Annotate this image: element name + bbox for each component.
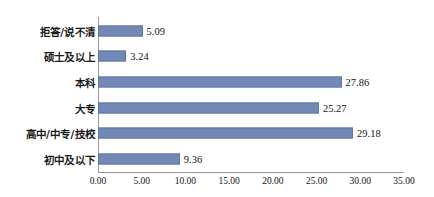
bar-value-label: 9.36	[184, 154, 202, 165]
category-label: 大专	[75, 100, 95, 115]
bar-chart: 拒答/说不清5.09硕士及以上3.24本科27.86大专25.27高中/中专/技…	[0, 0, 434, 197]
category-label: 高中/中专/技校	[26, 126, 95, 141]
bar	[98, 102, 319, 113]
bar	[98, 128, 353, 139]
x-tick-label: 0.00	[90, 176, 107, 186]
bar-value-label: 27.86	[346, 77, 370, 88]
bar-row: 高中/中专/技校29.18	[98, 121, 404, 147]
x-tick-label: 5.00	[133, 176, 150, 186]
bar	[98, 51, 126, 62]
x-tick-label: 35.00	[393, 176, 414, 186]
category-label: 拒答/说不清	[40, 23, 95, 38]
x-tick-label: 30.00	[350, 176, 371, 186]
bar-row: 硕士及以上3.24	[98, 44, 404, 70]
bar-value-label: 25.27	[323, 102, 347, 113]
bar-value-label: 3.24	[130, 51, 148, 62]
plot-area: 拒答/说不清5.09硕士及以上3.24本科27.86大专25.27高中/中专/技…	[98, 18, 404, 172]
bar	[98, 77, 342, 88]
bar	[98, 25, 143, 36]
bar-row: 大专25.27	[98, 95, 404, 121]
bar-row: 拒答/说不清5.09	[98, 18, 404, 44]
category-label: 初中及以下	[44, 152, 95, 167]
x-tick-label: 10.00	[175, 176, 196, 186]
bar-value-label: 29.18	[357, 128, 381, 139]
x-tick-label: 20.00	[262, 176, 283, 186]
bar-value-label: 5.09	[147, 25, 165, 36]
category-label: 硕士及以上	[44, 49, 95, 64]
bar	[98, 154, 180, 165]
x-axis-line	[98, 172, 404, 173]
category-label: 本科	[75, 75, 95, 90]
x-tick-label: 15.00	[218, 176, 239, 186]
bar-row: 初中及以下9.36	[98, 146, 404, 172]
x-tick-label: 25.00	[306, 176, 327, 186]
bar-row: 本科27.86	[98, 69, 404, 95]
